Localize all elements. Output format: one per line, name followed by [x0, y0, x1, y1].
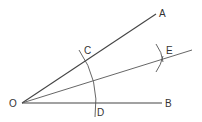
label-a: A — [159, 8, 166, 19]
bisector-oe — [22, 50, 192, 103]
label-o: O — [9, 98, 17, 109]
label-c: C — [84, 45, 91, 56]
label-e: E — [166, 45, 173, 56]
ray-oa — [22, 14, 156, 103]
arc-mark-e2 — [156, 56, 163, 72]
label-d: D — [97, 107, 104, 118]
angle-bisector-diagram: O A B C D E — [0, 0, 202, 122]
label-b: B — [165, 98, 172, 109]
